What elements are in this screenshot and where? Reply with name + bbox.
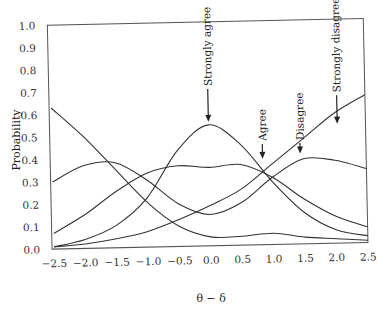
x-tick-label: 1.5 xyxy=(297,252,314,264)
y-tick-label: 0.9 xyxy=(19,42,36,54)
y-tick-label: 0.8 xyxy=(19,64,36,76)
x-tick-label: 0.5 xyxy=(234,253,251,265)
x-tick-label: 2.5 xyxy=(360,250,377,262)
x-tick-label: −2.0 xyxy=(73,256,99,269)
y-tick-label: 1.0 xyxy=(19,19,36,31)
annotation-label: Agree xyxy=(256,109,269,142)
x-axis-ticks: −2.5−2.0−1.5−1.0−0.50.00.51.01.52.02.5 xyxy=(41,250,376,269)
x-tick-label: 2.0 xyxy=(328,251,345,263)
probability-chart: 0.00.10.20.30.40.50.60.70.80.91.0 −2.5−2… xyxy=(0,0,383,320)
y-tick-label: 0.2 xyxy=(22,199,39,211)
arrow-head-icon xyxy=(297,146,303,153)
x-tick-label: −1.0 xyxy=(136,255,162,268)
arrow-line xyxy=(208,89,209,116)
y-tick-label: 0.1 xyxy=(23,221,40,233)
arrow-head-icon xyxy=(259,152,265,159)
x-axis-title: θ − δ xyxy=(196,291,226,305)
annotation-label: Disagree xyxy=(293,92,306,140)
curve-line xyxy=(52,122,368,247)
plot-area: 0.00.10.20.30.40.50.60.70.80.91.0 −2.5−2… xyxy=(18,0,377,309)
y-tick-label: 0.3 xyxy=(22,176,39,188)
annotation-label: Strongly agree xyxy=(200,7,214,87)
annotations: Strongly agreeAgreeDisagreeStrongly disa… xyxy=(200,0,344,160)
x-tick-label: −1.5 xyxy=(104,255,130,268)
y-tick-label: 0.4 xyxy=(21,154,38,166)
arrow-head-icon xyxy=(205,115,211,122)
x-tick-label: −2.5 xyxy=(41,257,67,270)
y-tick-label: 0.0 xyxy=(23,243,40,255)
annotation-label: Strongly disagree xyxy=(329,0,343,92)
x-tick-label: 1.0 xyxy=(266,252,283,264)
y-tick-label: 0.5 xyxy=(21,131,38,143)
y-axis-title: Probability xyxy=(10,109,23,171)
y-tick-label: 0.7 xyxy=(20,87,37,99)
x-tick-label: 0.0 xyxy=(203,254,220,266)
x-tick-label: −0.5 xyxy=(167,254,193,267)
arrow-head-icon xyxy=(334,117,340,124)
